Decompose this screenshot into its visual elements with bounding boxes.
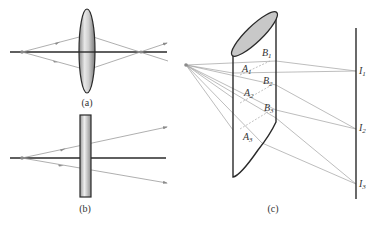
ray-b-upper — [22, 127, 167, 158]
panel-b: (b) — [10, 115, 167, 215]
label-I2: I2 — [358, 122, 366, 135]
label-I3: I3 — [358, 178, 366, 191]
label-A2: A2 — [243, 87, 254, 100]
panel-a: (a) — [10, 9, 168, 109]
label-b: (b) — [79, 203, 91, 215]
label-I1: I1 — [358, 65, 366, 78]
arrow-icon — [55, 42, 60, 45]
image-point-a — [139, 50, 142, 53]
converging-lens — [79, 9, 95, 93]
cylinder-top-ellipse — [227, 7, 283, 62]
panel-c: B1 A1 B2 A2 B3 A3 I1 I2 I3 (c) — [184, 7, 366, 215]
label-A3: A3 — [242, 131, 253, 144]
ray-a-upper-in — [22, 35, 87, 52]
label-B2: B2 — [263, 75, 273, 88]
source-point-b — [20, 156, 24, 160]
label-B3: B3 — [264, 102, 274, 115]
optics-diagram: (a) (b) — [0, 0, 371, 226]
label-A1: A1 — [241, 63, 252, 76]
ray-a-lower-in — [22, 52, 87, 70]
source-point-c — [184, 63, 188, 67]
ray-a-upper-out — [87, 35, 168, 61]
ray-b-lower — [22, 158, 167, 183]
label-a: (a) — [81, 97, 92, 109]
label-B1: B1 — [262, 47, 272, 60]
arrow-icon — [60, 148, 66, 151]
label-c: (c) — [267, 203, 278, 215]
source-point-a — [20, 50, 24, 54]
glass-slab — [80, 115, 91, 197]
